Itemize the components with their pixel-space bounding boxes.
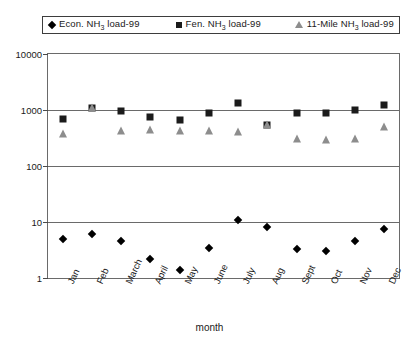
data-point-diamond [292, 245, 300, 253]
y-axis-tick-label: 10000 [16, 49, 42, 60]
y-axis-labels: 100001000100101 [0, 53, 42, 279]
data-point-square [147, 114, 154, 121]
legend-entry-2[interactable]: 11-Mile NH3 load-99 [295, 19, 394, 31]
data-point-diamond [351, 237, 359, 245]
data-point-triangle [380, 122, 388, 130]
data-point-diamond [322, 247, 330, 255]
chart-legend: Econ. NH3 load-99Fen. NH3 load-9911-Mile… [42, 16, 400, 34]
data-point-diamond [380, 225, 388, 233]
data-point-square [205, 109, 212, 116]
data-point-triangle [59, 129, 67, 137]
data-point-triangle [88, 103, 96, 111]
data-point-diamond [117, 237, 125, 245]
y-axis-tick-label: 1 [37, 273, 42, 284]
data-point-triangle [322, 136, 330, 144]
y-axis-tick-label: 1000 [21, 105, 42, 116]
data-point-triangle [176, 127, 184, 135]
gridline [48, 166, 399, 167]
data-point-square [381, 101, 388, 108]
y-axis-tick [43, 110, 48, 111]
y-axis-tick [43, 166, 48, 167]
y-axis-tick [43, 54, 48, 55]
data-point-diamond [146, 255, 154, 263]
diamond-marker-icon [48, 21, 56, 29]
data-point-triangle [351, 135, 359, 143]
data-point-square [176, 117, 183, 124]
x-axis-title: month [0, 322, 419, 333]
data-point-triangle [205, 127, 213, 135]
legend-entry-1[interactable]: Fen. NH3 load-99 [176, 19, 261, 31]
plot-area [47, 53, 400, 279]
legend-entry-0[interactable]: Econ. NH3 load-99 [49, 19, 140, 31]
legend-entry-label: 11-Mile NH3 load-99 [307, 19, 394, 31]
data-point-triangle [263, 120, 271, 128]
y-axis-tick-label: 10 [31, 217, 42, 228]
triangle-marker-icon [295, 21, 303, 28]
data-point-square [352, 107, 359, 114]
data-point-square [293, 110, 300, 117]
legend-entry-label: Fen. NH3 load-99 [186, 19, 261, 31]
y-axis-tick [43, 222, 48, 223]
data-point-triangle [234, 128, 242, 136]
data-point-triangle [117, 127, 125, 135]
data-point-square [322, 109, 329, 116]
data-point-square [59, 116, 66, 123]
legend-entry-label: Econ. NH3 load-99 [59, 19, 140, 31]
data-point-diamond [263, 223, 271, 231]
data-point-diamond [58, 235, 66, 243]
data-point-triangle [293, 135, 301, 143]
square-marker-icon [176, 22, 182, 28]
data-point-diamond [88, 230, 96, 238]
gridline [48, 222, 399, 223]
data-point-diamond [175, 266, 183, 274]
data-point-triangle [146, 126, 154, 134]
data-point-diamond [205, 243, 213, 251]
data-point-square [118, 108, 125, 115]
gridline [48, 110, 399, 111]
data-point-square [235, 99, 242, 106]
chart-container: Econ. NH3 load-99Fen. NH3 load-9911-Mile… [0, 0, 419, 344]
y-axis-tick-label: 100 [26, 161, 42, 172]
x-axis-labels: JanFebMarchAprilMayJuneJulyAugSeptOctNov… [47, 279, 400, 325]
